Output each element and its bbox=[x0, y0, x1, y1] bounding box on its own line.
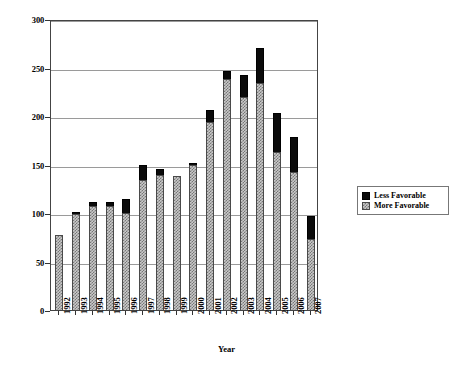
hatched-square-icon bbox=[362, 202, 370, 210]
x-tick-mark bbox=[109, 311, 110, 315]
x-tick-label: 2004 bbox=[263, 297, 273, 314]
x-tick-mark bbox=[58, 311, 59, 315]
bar-segment-more-favorable bbox=[106, 206, 114, 310]
x-axis-title: Year bbox=[0, 344, 453, 354]
x-tick-mark bbox=[243, 311, 244, 315]
bar-segment-more-favorable bbox=[206, 122, 214, 310]
x-tick-label: 2005 bbox=[280, 297, 290, 314]
bar-segment-more-favorable bbox=[122, 213, 130, 310]
x-tick-mark bbox=[92, 311, 93, 315]
legend-item-more-favorable: More Favorable bbox=[362, 201, 444, 210]
x-tick-mark bbox=[259, 311, 260, 315]
bar-stack bbox=[106, 202, 114, 310]
x-tick-label: 2001 bbox=[213, 297, 223, 314]
y-tick-label: 100 bbox=[8, 210, 44, 219]
bar-stack bbox=[240, 75, 248, 310]
plot-area bbox=[50, 20, 318, 311]
y-tick-label: 150 bbox=[8, 162, 44, 171]
bar-stack bbox=[273, 113, 281, 310]
legend-label: Less Favorable bbox=[374, 191, 426, 200]
y-tick-label: 200 bbox=[8, 113, 44, 122]
bar-segment-less-favorable bbox=[273, 113, 281, 152]
bar-segment-less-favorable bbox=[206, 110, 214, 122]
bar-segment-more-favorable bbox=[240, 97, 248, 310]
y-tick-label: 250 bbox=[8, 65, 44, 74]
x-tick-label: 1998 bbox=[162, 297, 172, 314]
chart-figure: Number of Measures 050100150200250300 19… bbox=[0, 0, 453, 368]
bar-stack bbox=[139, 165, 147, 310]
y-tick-label: 300 bbox=[8, 16, 44, 25]
gridline bbox=[51, 21, 317, 22]
x-tick-mark bbox=[276, 311, 277, 315]
bar-stack bbox=[72, 212, 80, 310]
bar-stack bbox=[223, 71, 231, 310]
bar-segment-less-favorable bbox=[256, 48, 264, 83]
x-tick-mark bbox=[226, 311, 227, 315]
bar-segment-more-favorable bbox=[173, 176, 181, 310]
chart-legend: Less Favorable More Favorable bbox=[357, 186, 449, 215]
x-tick-label: 1996 bbox=[129, 297, 139, 314]
bar-segment-more-favorable bbox=[72, 214, 80, 310]
bar-segment-less-favorable bbox=[223, 71, 231, 79]
black-square-icon bbox=[362, 192, 370, 200]
legend-item-less-favorable: Less Favorable bbox=[362, 191, 444, 200]
y-tick-label: 50 bbox=[8, 259, 44, 268]
bar-segment-more-favorable bbox=[139, 180, 147, 310]
x-tick-label: 2002 bbox=[229, 297, 239, 314]
bar-segment-less-favorable bbox=[240, 75, 248, 96]
x-tick-mark bbox=[176, 311, 177, 315]
gridline bbox=[51, 70, 317, 71]
x-tick-mark bbox=[75, 311, 76, 315]
bar-segment-more-favorable bbox=[89, 206, 97, 310]
x-tick-label: 2000 bbox=[196, 297, 206, 314]
x-tick-label: 2003 bbox=[246, 297, 256, 314]
bar-segment-more-favorable bbox=[189, 165, 197, 310]
bar-segment-less-favorable bbox=[290, 137, 298, 172]
x-tick-mark bbox=[159, 311, 160, 315]
x-tick-mark bbox=[192, 311, 193, 315]
bar-stack bbox=[156, 169, 164, 310]
y-tick-label: 0 bbox=[8, 307, 44, 316]
x-tick-mark bbox=[293, 311, 294, 315]
bar-stack bbox=[173, 176, 181, 310]
x-tick-mark bbox=[310, 311, 311, 315]
bar-stack bbox=[307, 216, 315, 310]
x-tick-label: 2006 bbox=[296, 297, 306, 314]
bar-segment-more-favorable bbox=[290, 172, 298, 310]
bar-segment-less-favorable bbox=[139, 165, 147, 181]
bar-stack bbox=[122, 199, 130, 310]
x-tick-label: 2007 bbox=[313, 297, 323, 314]
bar-stack bbox=[189, 163, 197, 310]
bar-segment-more-favorable bbox=[156, 175, 164, 310]
bar-stack bbox=[206, 110, 214, 310]
bar-stack bbox=[89, 202, 97, 310]
bar-stack bbox=[256, 48, 264, 310]
x-tick-mark bbox=[142, 311, 143, 315]
bar-segment-less-favorable bbox=[307, 216, 315, 239]
x-tick-label: 1994 bbox=[95, 297, 105, 314]
bar-segment-more-favorable bbox=[223, 79, 231, 310]
bar-segment-more-favorable bbox=[273, 152, 281, 310]
legend-label: More Favorable bbox=[374, 201, 429, 210]
bar-segment-more-favorable bbox=[256, 83, 264, 310]
bar-segment-less-favorable bbox=[122, 199, 130, 213]
y-tick-mark bbox=[45, 311, 50, 312]
x-tick-mark bbox=[209, 311, 210, 315]
x-tick-label: 1995 bbox=[112, 297, 122, 314]
x-tick-label: 1993 bbox=[79, 297, 89, 314]
x-tick-mark bbox=[125, 311, 126, 315]
bar-stack bbox=[290, 137, 298, 310]
x-tick-label: 1997 bbox=[146, 297, 156, 314]
x-tick-label: 1999 bbox=[179, 297, 189, 314]
x-tick-label: 1992 bbox=[62, 297, 72, 314]
